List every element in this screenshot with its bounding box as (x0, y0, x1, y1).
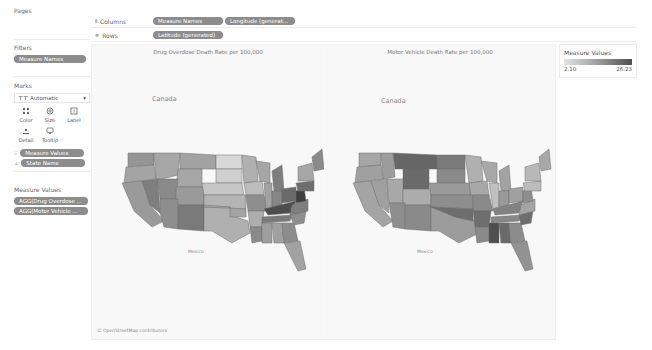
chevron-down-icon: ▾ (83, 95, 86, 101)
color-legend[interactable]: Measure Values 2.10 26.23 (559, 44, 637, 78)
filters-card: Filters Measure Names (14, 44, 90, 77)
pages-title: Pages (14, 4, 90, 14)
automatic-mark-icon: ⊤⊤ (18, 95, 28, 101)
color-icon: ⁝⁝ (14, 150, 17, 156)
filter-pill-measure-names[interactable]: Measure Names (14, 55, 86, 63)
marks-buttons: Color Size Label Detail Tooltip (14, 107, 90, 143)
detail-icon: ⊥ (14, 160, 18, 166)
marks-title: Marks (14, 82, 90, 89)
rows-icon: ≡ (95, 32, 99, 38)
mark-field-row-color: ⁝⁝ Measure Values (14, 149, 90, 157)
map-motor-vehicle[interactable]: Motor Vehicle Death Rate per 100,000 Can… (325, 45, 555, 339)
osm-attribution[interactable]: © OpenStreetMap contributors (97, 328, 167, 333)
measure-pill-motor-vehicle[interactable]: AGG(Motor Vehicle ... (14, 207, 88, 215)
legend-title: Measure Values (564, 49, 632, 56)
columns-icon: ⦀ (95, 18, 97, 25)
measure-pill-drug-overdose[interactable]: AGG(Drug Overdose ... (14, 197, 88, 205)
size-icon (46, 107, 54, 115)
mark-pill-state-name[interactable]: State Name (21, 159, 85, 167)
measure-values-card: Measure Values AGG(Drug Overdose ... AGG… (14, 186, 90, 226)
detail-label: Detail (19, 137, 34, 143)
left-pane: Pages Filters Measure Names Marks ⊤⊤ Aut… (0, 0, 91, 350)
color-button[interactable]: Color (14, 107, 38, 123)
columns-pill-measure-names[interactable]: Measure Names (153, 17, 223, 25)
color-icon (22, 107, 30, 115)
map-drug-overdose[interactable]: Drug Overdose Death Rate per 100,000 Can… (92, 45, 324, 339)
us-choropleth-drug-overdose (92, 45, 324, 339)
measure-values-title: Measure Values (14, 186, 90, 193)
color-label: Color (19, 117, 32, 123)
rows-label: Rows (102, 32, 118, 39)
size-button[interactable]: Size (38, 107, 62, 123)
mark-pill-measure-values[interactable]: Measure Values (20, 149, 84, 157)
detail-icon (22, 127, 30, 135)
mark-type-value: Automatic (30, 95, 58, 101)
tooltip-icon (46, 127, 54, 135)
legend-gradient-bar (564, 59, 632, 65)
rows-shelf[interactable]: ≡ Rows Latitude (generated) (91, 29, 636, 42)
size-label: Size (45, 117, 55, 123)
country-label-mexico: Mexico (417, 249, 433, 254)
filters-title: Filters (14, 44, 90, 51)
label-button[interactable]: Label (62, 107, 86, 123)
tooltip-button[interactable]: Tooltip (38, 127, 62, 143)
label-label: Label (67, 117, 81, 123)
detail-button[interactable]: Detail (14, 127, 38, 143)
country-label-mexico: Mexico (188, 249, 204, 254)
columns-label: Columns (100, 18, 126, 25)
legend-min: 2.10 (564, 66, 576, 72)
mark-field-row-detail: ⊥ State Name (14, 159, 90, 167)
marks-card: Marks ⊤⊤ Automatic ▾ Color Size Label (14, 82, 90, 172)
viz-area: Drug Overdose Death Rate per 100,000 Can… (91, 44, 556, 340)
label-icon (70, 107, 78, 115)
legend-max: 26.23 (616, 66, 632, 72)
rows-pill-latitude[interactable]: Latitude (generated) (153, 31, 223, 39)
tooltip-label: Tooltip (42, 137, 58, 143)
us-choropleth-motor-vehicle (325, 45, 555, 339)
columns-shelf[interactable]: ⦀ Columns Measure Names Longitude (gener… (91, 15, 636, 28)
columns-pill-longitude[interactable]: Longitude (generate... (225, 17, 295, 25)
mark-type-dropdown[interactable]: ⊤⊤ Automatic ▾ (14, 93, 90, 103)
pages-card[interactable]: Pages (14, 4, 90, 40)
